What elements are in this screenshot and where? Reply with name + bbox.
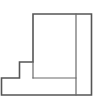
stepped-block-figure bbox=[0, 0, 106, 104]
drawing-canvas bbox=[0, 0, 106, 104]
block-outline-polygon bbox=[2, 14, 92, 95]
